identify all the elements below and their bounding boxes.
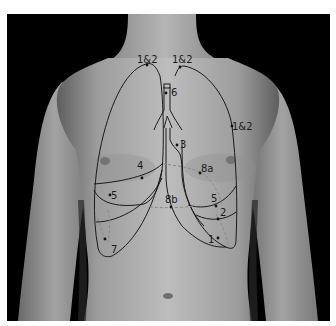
label-fissure-4: 4: [137, 160, 143, 171]
dot-trachea: [165, 92, 168, 95]
label-5-left: 5: [111, 190, 117, 201]
label-2: 2: [220, 207, 226, 218]
dot-4: [141, 177, 144, 180]
bronchus-inner-left: [164, 116, 172, 128]
left-fissure-lower: [96, 178, 162, 222]
dashed-8b-line: [150, 206, 196, 208]
label-bronchus: 3: [180, 139, 186, 150]
dot-2: [217, 218, 220, 221]
label-lateral-right: 1&2: [232, 121, 253, 132]
right-fissure-2: [196, 212, 236, 219]
dot-7: [104, 238, 107, 241]
label-apex-left: 1&2: [137, 54, 158, 65]
right-lung-outline: [175, 66, 237, 248]
label-apex-right: 1&2: [172, 54, 193, 65]
dashed-left-lateral-2: [108, 210, 110, 242]
label-8a: 8a: [201, 163, 214, 174]
dot-8b: [170, 206, 173, 209]
left-fissure-5: [94, 170, 162, 205]
label-1: 1: [208, 234, 214, 245]
dot-bronchus: [176, 144, 179, 147]
dot-apex-right: [179, 66, 182, 69]
dot-1: [217, 237, 220, 240]
lung-diagram-overlay: 1&2 1&2 6 3 1&2 4 8a 5 8b 5 2 1 7: [0, 0, 336, 326]
left-lung-outline: [94, 64, 163, 257]
bronchus-right-wall: [170, 128, 204, 226]
bronchus-left-wall: [166, 128, 226, 247]
label-7: 7: [111, 244, 117, 255]
label-8b: 8b: [165, 194, 178, 205]
label-trachea: 6: [171, 87, 177, 98]
trachea-top: [164, 84, 170, 88]
label-5-right: 5: [211, 193, 217, 204]
left-fissure-4: [94, 164, 162, 184]
dot-5-right: [215, 205, 218, 208]
